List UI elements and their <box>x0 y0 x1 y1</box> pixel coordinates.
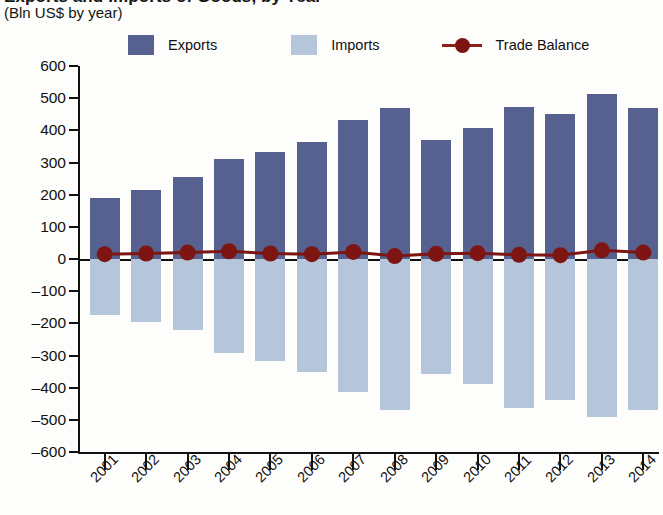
bar-exports <box>131 190 161 259</box>
legend-label-exports: Exports <box>168 37 217 53</box>
y-axis-tick <box>69 97 78 99</box>
bar-exports <box>173 177 203 259</box>
legend-label-trade-balance: Trade Balance <box>496 37 590 53</box>
y-axis-tick-label: 100 <box>40 218 66 236</box>
y-axis-tick-label: 200 <box>40 186 66 204</box>
bar-imports <box>255 259 285 361</box>
x-axis-tick-label: 2006 <box>294 451 328 485</box>
chart-legend: Exports Imports Trade Balance <box>128 33 589 57</box>
y-axis-tick <box>69 258 78 260</box>
y-axis-labels: 6005004003002001000–100–200–300–400–500–… <box>0 0 66 515</box>
y-axis-tick-label: 500 <box>40 89 66 107</box>
x-axis-tick-label: 2005 <box>252 451 286 485</box>
bar-imports <box>173 259 203 330</box>
y-axis-tick <box>69 129 78 131</box>
bar-exports <box>338 120 368 259</box>
y-axis-tick <box>69 387 78 389</box>
bar-exports <box>297 142 327 259</box>
bar-exports <box>90 198 120 259</box>
legend-item-trade-balance: Trade Balance <box>442 35 590 55</box>
y-axis-tick-label: 0 <box>57 250 66 268</box>
y-axis-tick-label: –200 <box>32 314 66 332</box>
bar-exports <box>463 128 493 259</box>
legend-label-imports: Imports <box>331 37 379 53</box>
y-axis-tick <box>69 226 78 228</box>
y-axis-tick <box>69 290 78 292</box>
bar-imports <box>214 259 244 353</box>
x-axis-tick-label: 2002 <box>128 451 162 485</box>
x-axis-tick-label: 2001 <box>87 451 121 485</box>
x-axis-tick-label: 2012 <box>542 451 576 485</box>
bar-exports <box>214 159 244 259</box>
x-axis-tick-label: 2014 <box>625 451 659 485</box>
bar-imports <box>131 259 161 322</box>
bar-exports <box>587 94 617 259</box>
bar-exports <box>504 107 534 259</box>
bar-imports <box>297 259 327 372</box>
legend-item-imports: Imports <box>291 35 379 55</box>
x-axis-tick-label: 2009 <box>418 451 452 485</box>
plot-area <box>78 66 658 452</box>
bar-imports <box>380 259 410 410</box>
bar-imports <box>628 259 658 410</box>
bar-imports <box>504 259 534 408</box>
y-axis-tick-label: 400 <box>40 121 66 139</box>
y-axis-tick <box>69 451 78 453</box>
y-axis-tick <box>69 162 78 164</box>
bar-exports <box>380 108 410 259</box>
bar-exports <box>545 114 575 259</box>
y-axis-tick <box>69 65 78 67</box>
y-axis-tick <box>69 194 78 196</box>
bar-exports <box>628 108 658 259</box>
y-axis-tick-label: 300 <box>40 154 66 172</box>
bar-imports <box>587 259 617 417</box>
legend-marker-trade-balance <box>442 35 482 55</box>
y-axis-tick <box>69 322 78 324</box>
x-axis-line <box>78 452 659 454</box>
bar-exports <box>255 152 285 259</box>
bar-imports <box>421 259 451 374</box>
y-axis-tick-label: –400 <box>32 379 66 397</box>
x-axis-tick-label: 2010 <box>460 451 494 485</box>
x-axis-tick-label: 2004 <box>211 451 245 485</box>
bar-exports <box>421 140 451 259</box>
bar-imports <box>338 259 368 392</box>
y-axis-tick-label: 600 <box>40 57 66 75</box>
y-axis-tick <box>69 419 78 421</box>
x-axis-tick-label: 2011 <box>501 452 534 485</box>
legend-item-exports: Exports <box>128 35 217 55</box>
x-axis-tick-label: 2007 <box>335 451 369 485</box>
y-axis-tick-label: –300 <box>32 347 66 365</box>
y-axis-tick-label: –600 <box>32 443 66 461</box>
y-axis-tick-label: –100 <box>32 282 66 300</box>
bar-imports <box>90 259 120 315</box>
x-axis-tick-label: 2013 <box>584 451 618 485</box>
x-axis-tick-label: 2008 <box>377 451 411 485</box>
legend-swatch-exports <box>128 35 154 55</box>
bar-imports <box>545 259 575 400</box>
y-axis-tick <box>69 355 78 357</box>
legend-swatch-imports <box>291 35 317 55</box>
y-axis-tick-label: –500 <box>32 411 66 429</box>
x-axis-tick-label: 2003 <box>170 451 204 485</box>
bar-imports <box>463 259 493 384</box>
